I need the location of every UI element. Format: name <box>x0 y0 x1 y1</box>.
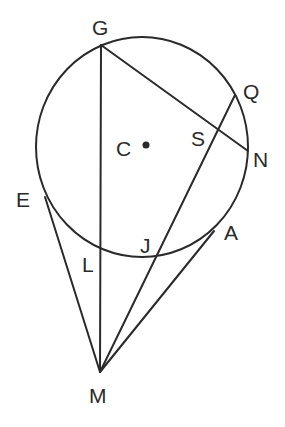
label-s: S <box>191 127 205 150</box>
segment-am <box>100 231 214 372</box>
label-m: M <box>89 384 107 407</box>
geometry-diagram: G Q S N C E L J A M <box>0 0 285 427</box>
label-c: C <box>116 137 131 160</box>
label-e: E <box>16 188 30 211</box>
label-j: J <box>140 234 151 257</box>
label-a: A <box>224 221 238 244</box>
segment-em <box>45 197 100 372</box>
label-n: N <box>253 148 268 171</box>
circle-c <box>36 37 248 257</box>
segment-gn <box>101 45 248 151</box>
label-q: Q <box>243 80 259 103</box>
label-l: L <box>82 253 94 276</box>
segment-gm <box>100 45 101 372</box>
label-g: G <box>92 16 108 39</box>
center-point <box>143 142 150 149</box>
